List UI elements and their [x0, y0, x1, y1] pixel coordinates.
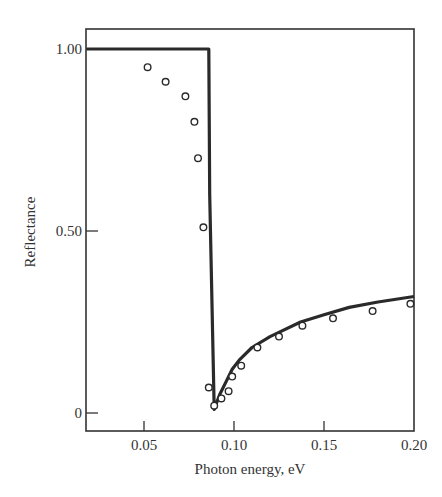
experiment-point: [206, 384, 213, 391]
x-axis-ticks: 0.050.100.150.20: [131, 421, 427, 453]
x-tick-label: 0.15: [311, 437, 337, 453]
theory-curve: [86, 49, 414, 409]
reflectance-chart: 0.050.100.150.20 00.501.00 Photon energy…: [0, 0, 442, 497]
x-tick-label: 0.20: [401, 437, 427, 453]
experiment-point: [276, 333, 283, 340]
y-axis-label: Reflectance: [22, 196, 38, 267]
experiment-point: [191, 119, 198, 126]
y-axis-ticks: 00.501.00: [56, 41, 98, 421]
experiment-point: [229, 373, 236, 380]
experiment-point: [144, 64, 151, 71]
experiment-point: [254, 344, 261, 351]
experiment-point: [407, 301, 414, 308]
experiment-point: [162, 78, 169, 85]
experiment-point: [225, 388, 232, 395]
y-tick-label: 0.50: [56, 223, 82, 239]
x-axis-label: Photon energy, eV: [195, 461, 306, 477]
experiment-point: [369, 308, 376, 315]
experiment-point: [195, 155, 202, 162]
data-series: [86, 49, 414, 409]
y-tick-label: 1.00: [56, 41, 82, 57]
experiment-point: [211, 402, 218, 409]
experiment-point: [182, 93, 189, 100]
experiment-point: [238, 362, 245, 369]
x-tick-label: 0.05: [131, 437, 157, 453]
experiment-point: [330, 315, 337, 322]
y-tick-label: 0: [75, 405, 83, 421]
x-tick-label: 0.10: [221, 437, 247, 453]
experiment-point: [200, 224, 207, 231]
plot-frame: [86, 29, 414, 431]
experiment-point: [218, 395, 225, 402]
experiment-point: [299, 322, 306, 329]
